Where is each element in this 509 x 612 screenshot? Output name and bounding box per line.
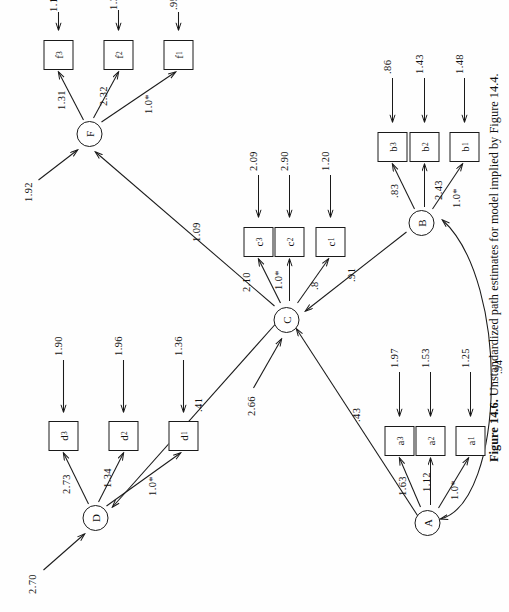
figure-caption-text: Unstandardized path estimates for model … [486, 73, 500, 399]
structural-label-B-C: .91 [345, 268, 356, 282]
factor-node-D[interactable]: D [82, 505, 108, 531]
factor-label-F: F [83, 131, 95, 137]
error-label-f2: 1.39 [107, 0, 118, 10]
loading-label-F-f1: 1.0* [142, 94, 153, 114]
indicator-box-d2[interactable]: d2 [108, 421, 138, 451]
loading-label-A-a3: 1.63 [396, 476, 407, 496]
factor-label-D: D [89, 514, 101, 522]
indicator-box-c1[interactable]: c1 [315, 227, 345, 257]
error-label-a3: 1.97 [388, 348, 399, 368]
structural-label-C-D: .41 [192, 398, 203, 412]
indicator-box-c3[interactable]: c3 [243, 227, 273, 257]
structural-label-A-C: .43 [350, 408, 361, 422]
figure-page: D F C A B d3 d2 d1 f3 f2 f1 c3 c2 c1 a3 … [0, 0, 509, 612]
path-diagram: D F C A B d3 d2 d1 f3 f2 f1 c3 c2 c1 a3 … [0, 0, 509, 612]
error-label-c1: 1.20 [319, 151, 330, 171]
indicator-box-b3[interactable]: b3 [377, 132, 407, 162]
loading-label-D-d1: 1.0* [146, 476, 157, 496]
factor-node-F[interactable]: F [76, 121, 102, 147]
loading-label-F-f2: 2.32 [97, 86, 108, 106]
factor-label-A: A [421, 519, 433, 527]
loading-label-B-b1: 1.0* [450, 188, 461, 208]
factor-node-C[interactable]: C [273, 307, 299, 333]
loading-label-D-d3: 2.73 [60, 474, 71, 494]
disturbance-label-D: 2.70 [26, 574, 37, 594]
factor-node-B[interactable]: B [408, 210, 434, 236]
indicator-box-d3[interactable]: d3 [48, 421, 78, 451]
loading-label-D-d2: 1.34 [101, 468, 112, 488]
indicator-box-a3[interactable]: a3 [384, 426, 414, 456]
indicator-box-f2[interactable]: f2 [103, 40, 133, 70]
loading-label-A-a2: 1.12 [420, 472, 431, 492]
error-label-b3: .86 [381, 60, 392, 74]
factor-label-C: C [280, 316, 292, 323]
rotated-figure-wrapper: D F C A B d3 d2 d1 f3 f2 f1 c3 c2 c1 a3 … [0, 0, 509, 612]
structural-label-C-F: 1.09 [190, 222, 201, 242]
loading-label-C-c3: 2.10 [240, 272, 251, 292]
factor-node-A[interactable]: A [414, 510, 440, 536]
loading-label-A-a1: 1.0* [448, 480, 459, 500]
loading-label-C-c1: .8 [308, 281, 319, 290]
error-label-c2: 2.90 [278, 151, 289, 171]
error-label-b2: 1.43 [413, 54, 424, 74]
figure-caption-number: Figure 14.6. [486, 399, 500, 462]
indicator-box-b1[interactable]: b1 [449, 132, 479, 162]
error-label-b1: 1.48 [453, 54, 464, 74]
error-label-f3: 1.18 [47, 0, 58, 12]
loading-label-B-b2: 2.43 [432, 180, 443, 200]
disturbance-label-C: 2.66 [245, 396, 256, 416]
indicator-box-f3[interactable]: f3 [43, 40, 73, 70]
indicator-box-c2[interactable]: c2 [274, 227, 304, 257]
error-label-d2: 1.96 [112, 336, 123, 356]
indicator-box-a1[interactable]: a1 [455, 426, 485, 456]
indicator-box-f1[interactable]: f1 [163, 40, 193, 70]
error-label-d3: 1.90 [52, 336, 63, 356]
indicator-box-b2[interactable]: b2 [409, 132, 439, 162]
indicator-box-d1[interactable]: d1 [168, 421, 198, 451]
error-label-d1: 1.36 [172, 336, 183, 356]
error-label-f1: .95 [167, 0, 178, 10]
factor-label-B: B [415, 219, 427, 226]
loading-label-B-b3: .83 [388, 184, 399, 198]
loading-label-C-c2: 1.0* [272, 270, 283, 290]
indicator-box-a2[interactable]: a2 [415, 426, 445, 456]
error-label-a1: 1.25 [459, 348, 470, 368]
error-label-c3: 2.09 [247, 151, 258, 171]
figure-caption: Figure 14.6. Unstandardized path estimat… [486, 73, 501, 462]
disturbance-label-F: 1.92 [22, 182, 33, 202]
error-label-a2: 1.53 [419, 348, 430, 368]
loading-label-F-f3: 1.31 [55, 90, 66, 110]
